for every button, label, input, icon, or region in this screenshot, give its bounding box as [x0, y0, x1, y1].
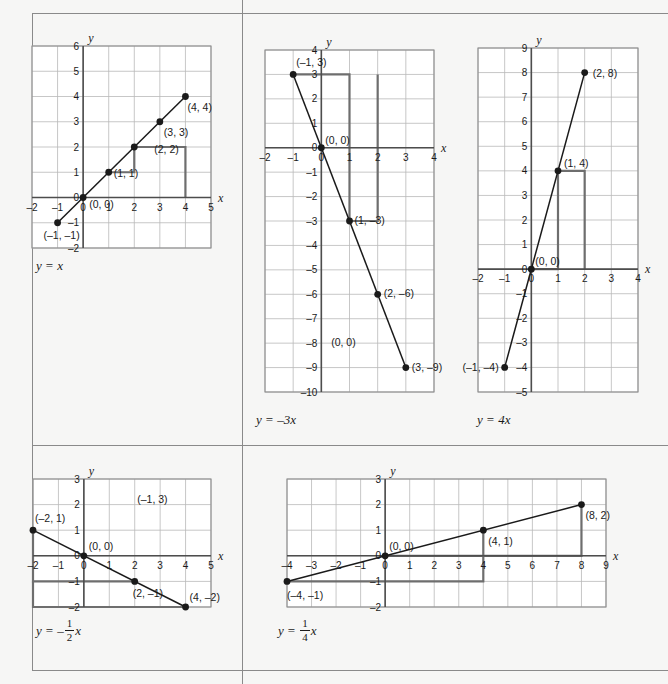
- x-tick-label: 8: [579, 560, 585, 571]
- x-tick-label: 4: [635, 273, 641, 284]
- data-point: [501, 364, 508, 371]
- data-point-label: (2, 8): [593, 67, 618, 79]
- data-point: [284, 578, 291, 585]
- y-tick-label: 2: [522, 215, 528, 226]
- fraction-numerator: 1: [300, 618, 310, 631]
- data-point: [578, 501, 585, 508]
- y-tick-label: 2: [74, 499, 80, 510]
- x-tick-label: 0: [80, 202, 86, 213]
- y-tick-label: –1: [68, 217, 80, 228]
- eqn-sign: –: [57, 623, 64, 638]
- data-point: [382, 552, 389, 559]
- data-point-label: (4, 1): [488, 535, 513, 547]
- y-axis-name: y: [325, 35, 332, 49]
- chart-cell-y-equals-x: –2–1012345–2–11234560xy(–1, –1)(0, 0)(1,…: [0, 0, 242, 445]
- x-axis-name: x: [440, 141, 447, 155]
- x-tick-label: 0: [382, 560, 388, 571]
- y-tick-label: –3: [306, 216, 318, 227]
- data-point-label: (0, 0): [89, 540, 114, 552]
- y-tick-label: –8: [306, 338, 318, 349]
- y-axis-name: y: [389, 464, 396, 478]
- fraction-denominator: 2: [65, 631, 75, 644]
- extra-label: (–1, 3): [137, 493, 167, 505]
- y-tick-label: 7: [522, 92, 528, 103]
- y-tick-label: –1: [69, 576, 81, 587]
- data-point-label: (–4, –1): [287, 589, 323, 601]
- x-tick-label: 3: [609, 273, 615, 284]
- equation-y-equals-quarter-x: y=14x: [278, 618, 316, 643]
- y-tick-label: 3: [312, 69, 318, 80]
- origin-tick-label: 0: [312, 142, 318, 153]
- data-point: [581, 69, 588, 76]
- eqn-lhs: y: [256, 412, 262, 427]
- y-tick-label: –2: [68, 243, 80, 254]
- fraction-denominator: 4: [300, 631, 310, 644]
- y-tick-label: –2: [69, 602, 81, 613]
- data-point-label: (1, 4): [564, 157, 589, 169]
- eqn-op: =: [46, 258, 53, 273]
- extra-label: (0, 0): [331, 336, 356, 348]
- x-tick-label: –2: [26, 202, 38, 213]
- data-point-label: (–1, –1): [43, 229, 79, 241]
- eqn-lhs: y: [477, 412, 483, 427]
- y-tick-label: 3: [74, 116, 80, 127]
- y-tick-label: 1: [376, 525, 382, 536]
- data-point: [182, 604, 189, 611]
- x-tick-label: 4: [481, 560, 487, 571]
- eqn-var: x: [75, 623, 81, 638]
- origin-tick-label: 0: [522, 264, 528, 275]
- data-point-label: (4, 4): [187, 101, 212, 113]
- data-point: [30, 527, 37, 534]
- equation-y-equals-minus-3x: y=–3x: [256, 412, 296, 428]
- eqn-lhs: y: [278, 623, 284, 638]
- y-axis-name: y: [87, 31, 94, 45]
- y-tick-label: –1: [306, 167, 318, 178]
- x-tick-label: 2: [375, 152, 381, 163]
- y-tick-label: 4: [312, 45, 318, 56]
- data-point-label: (0, 0): [535, 255, 560, 267]
- x-tick-label: 3: [157, 202, 163, 213]
- data-point-label: (0, 0): [325, 134, 350, 146]
- data-point-label: (1, 1): [114, 167, 139, 179]
- eqn-op: =: [266, 412, 273, 427]
- y-axis-name: y: [535, 33, 542, 47]
- chart-cell-y-equals-4x: –2–101234–5–4–3–2–11234567890xy(–1, –4)(…: [455, 0, 668, 445]
- y-tick-label: 9: [522, 43, 528, 54]
- x-axis-name: x: [644, 262, 651, 276]
- y-tick-label: 1: [74, 525, 80, 536]
- x-tick-label: 3: [157, 560, 163, 571]
- y-tick-label: –1: [370, 576, 382, 587]
- y-tick-label: –3: [516, 337, 528, 348]
- y-tick-label: 4: [522, 165, 528, 176]
- y-tick-label: 2: [312, 93, 318, 104]
- chart-cell-y-equals-quarter-x: –4–3–2–10123456789–2–11230xy(–4, –1)(0, …: [242, 446, 668, 684]
- y-tick-label: –2: [370, 602, 382, 613]
- y-tick-label: –7: [306, 313, 318, 324]
- x-tick-label: 3: [456, 560, 462, 571]
- y-tick-label: 5: [522, 141, 528, 152]
- x-tick-label: 6: [530, 560, 536, 571]
- eqn-var: x: [311, 623, 317, 638]
- x-tick-label: –1: [499, 273, 511, 284]
- chart-cell-y-equals-minus-half-x: –2–1012345–2–11230xy(–2, 1)(0, 0)(2, –1)…: [0, 446, 242, 684]
- data-point-label: (2, –6): [384, 287, 414, 299]
- y-tick-label: –5: [516, 387, 528, 398]
- x-tick-label: 2: [132, 202, 138, 213]
- data-point: [131, 144, 138, 151]
- x-tick-label: 4: [183, 560, 189, 571]
- y-tick-label: –2: [306, 191, 318, 202]
- x-tick-label: 4: [431, 152, 437, 163]
- eqn-op: =: [288, 623, 295, 638]
- data-point-label: (–2, 1): [35, 512, 65, 524]
- y-tick-label: –6: [306, 289, 318, 300]
- data-point-label: (1, –3): [355, 214, 385, 226]
- y-tick-label: 1: [74, 167, 80, 178]
- y-tick-label: 3: [74, 474, 80, 485]
- equation-y-equals-4x: y=4x: [477, 412, 510, 428]
- x-tick-label: –1: [52, 202, 64, 213]
- data-point: [131, 578, 138, 585]
- y-tick-label: 2: [74, 142, 80, 153]
- data-point: [528, 266, 535, 273]
- data-point: [105, 169, 112, 176]
- y-axis-name: y: [88, 464, 95, 478]
